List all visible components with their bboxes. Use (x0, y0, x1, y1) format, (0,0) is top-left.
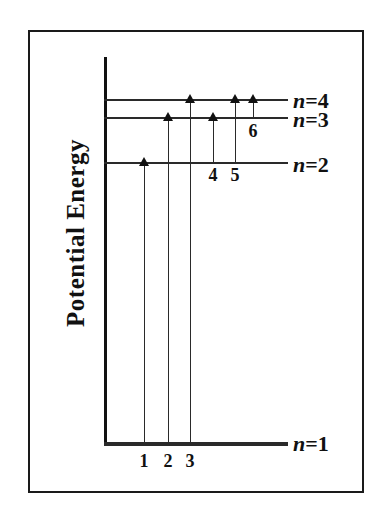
level-label-n1-value: =1 (305, 431, 329, 456)
energy-level-label-n2: n=2 (293, 152, 329, 178)
transition-label-4: 4 (203, 165, 223, 186)
transition-arrow-head-2 (163, 112, 173, 121)
transition-arrow-shaft-6 (253, 103, 254, 119)
transition-arrow-head-6 (248, 94, 258, 103)
energy-level-line-n3 (104, 117, 288, 119)
y-axis-spine (104, 57, 107, 446)
transition-label-3: 3 (180, 451, 200, 472)
transition-arrow-shaft-3 (190, 103, 191, 444)
level-label-n3-value: =3 (305, 107, 329, 132)
energy-level-line-n2 (104, 162, 288, 164)
transition-arrow-head-4 (208, 112, 218, 121)
transition-arrow-head-3 (185, 94, 195, 103)
level-label-n2-value: =2 (305, 152, 329, 177)
transition-arrow-shaft-1 (144, 166, 145, 444)
transition-arrow-head-1 (139, 157, 149, 166)
transition-arrow-shaft-5 (235, 103, 236, 163)
transition-label-2: 2 (158, 451, 178, 472)
transition-arrow-shaft-2 (168, 121, 169, 444)
transition-arrow-head-5 (230, 94, 240, 103)
y-axis-title: Potential Energy (56, 118, 96, 348)
transition-label-5: 5 (225, 165, 245, 186)
transition-arrow-shaft-4 (213, 121, 214, 163)
energy-level-label-n1: n=1 (293, 431, 329, 457)
energy-level-line-n1 (104, 442, 288, 446)
transition-label-1: 1 (134, 451, 154, 472)
energy-level-label-n3: n=3 (293, 107, 329, 133)
energy-level-line-n4 (104, 99, 288, 101)
energy-level-diagram-figure: Potential Energy n=4 n=3 n=2 n=1 1 2 3 4… (0, 0, 375, 512)
transition-label-6: 6 (243, 121, 263, 142)
